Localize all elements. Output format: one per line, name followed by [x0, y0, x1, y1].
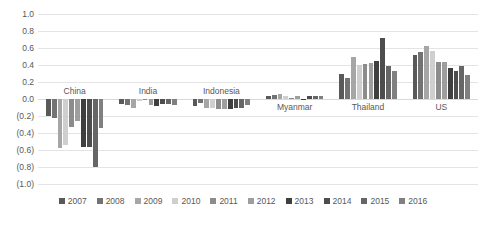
- legend-label: 2011: [219, 196, 237, 206]
- bar: [313, 96, 318, 99]
- y-axis-tick-label: 0.8: [0, 26, 34, 36]
- bar: [413, 55, 418, 99]
- chart-legend: 2007200820092010201120122013201420152016: [0, 196, 486, 206]
- legend-swatch-icon: [135, 198, 141, 204]
- bar: [193, 99, 198, 106]
- legend-item[interactable]: 2015: [361, 196, 389, 206]
- y-axis-tick-label: 0.6: [0, 43, 34, 53]
- bar: [380, 38, 385, 99]
- legend-item[interactable]: 2012: [248, 196, 276, 206]
- bar: [172, 99, 177, 105]
- bar: [424, 46, 429, 99]
- legend-label: 2016: [408, 196, 427, 206]
- bar: [137, 99, 142, 101]
- bar: [87, 99, 92, 147]
- bar: [465, 75, 470, 99]
- bar: [69, 99, 74, 127]
- legend-swatch-icon: [97, 198, 103, 204]
- legend-item[interactable]: 2010: [172, 196, 200, 206]
- bar: [245, 99, 250, 105]
- bar: [58, 99, 63, 148]
- bar: [363, 64, 368, 99]
- bar: [339, 74, 344, 99]
- bar: [386, 66, 391, 99]
- legend-label: 2012: [257, 196, 276, 206]
- y-axis-tick-label: (0.2): [0, 111, 34, 121]
- bar: [374, 61, 379, 99]
- bar: [131, 99, 136, 108]
- y-axis-tick-label: 0.4: [0, 60, 34, 70]
- bar: [430, 51, 435, 99]
- bar: [351, 57, 356, 100]
- legend-swatch-icon: [286, 198, 292, 204]
- group-label-china: China: [64, 86, 86, 96]
- bar: [392, 71, 397, 99]
- bar: [46, 99, 51, 116]
- bar: [125, 99, 130, 105]
- bar-group-thailand: Thailand: [339, 14, 398, 184]
- bar: [63, 99, 68, 145]
- legend-swatch-icon: [172, 198, 178, 204]
- bar: [119, 99, 124, 104]
- y-axis-tick-label: 0.0: [0, 94, 34, 104]
- bar: [99, 99, 104, 128]
- legend-item[interactable]: 2016: [399, 196, 427, 206]
- legend-item[interactable]: 2007: [59, 196, 87, 206]
- bar-group-indonesia: Indonesia: [192, 14, 251, 184]
- bar: [52, 99, 57, 118]
- legend-label: 2014: [333, 196, 352, 206]
- bar: [459, 66, 464, 99]
- bar: [289, 98, 294, 99]
- bar: [272, 95, 277, 99]
- y-axis-tick-label: (0.6): [0, 145, 34, 155]
- legend-label: 2013: [295, 196, 314, 206]
- legend-label: 2009: [144, 196, 163, 206]
- bar: [442, 62, 447, 99]
- legend-swatch-icon: [399, 198, 405, 204]
- bar-group-us: US: [412, 14, 471, 184]
- group-label-india: India: [139, 86, 157, 96]
- bar: [160, 99, 165, 104]
- bar: [266, 96, 271, 99]
- bar-groups-layer: ChinaIndiaIndonesiaMyanmarThailandUS: [38, 14, 478, 184]
- bar: [149, 99, 154, 105]
- legend-label: 2007: [68, 196, 87, 206]
- legend-swatch-icon: [248, 198, 254, 204]
- y-axis: 1.00.80.60.40.20.0(0.2)(0.4)(0.6)(0.8)(1…: [0, 14, 34, 184]
- bar: [198, 99, 203, 103]
- bar: [436, 62, 441, 99]
- bar: [216, 99, 221, 109]
- bar: [239, 99, 244, 108]
- bar: [278, 94, 283, 99]
- y-axis-tick-label: 1.0: [0, 9, 34, 19]
- bar: [154, 99, 159, 106]
- group-label-myanmar: Myanmar: [277, 102, 312, 112]
- legend-swatch-icon: [210, 198, 216, 204]
- legend-item[interactable]: 2013: [286, 196, 314, 206]
- legend-item[interactable]: 2008: [97, 196, 125, 206]
- bar: [228, 99, 233, 109]
- legend-label: 2008: [106, 196, 125, 206]
- legend-item[interactable]: 2009: [135, 196, 163, 206]
- bar: [301, 99, 306, 100]
- bar: [81, 99, 86, 147]
- bar: [357, 65, 362, 99]
- bar: [418, 52, 423, 99]
- bar: [454, 71, 459, 99]
- group-label-us: US: [435, 102, 447, 112]
- gridline: [38, 184, 478, 185]
- bar-chart: 1.00.80.60.40.20.0(0.2)(0.4)(0.6)(0.8)(1…: [0, 0, 486, 226]
- legend-swatch-icon: [361, 198, 367, 204]
- legend-swatch-icon: [324, 198, 330, 204]
- bar: [234, 99, 239, 108]
- legend-label: 2015: [370, 196, 389, 206]
- y-axis-tick-label: (1.0): [0, 179, 34, 189]
- bar: [204, 99, 209, 108]
- legend-item[interactable]: 2014: [324, 196, 352, 206]
- legend-item[interactable]: 2011: [210, 196, 237, 206]
- bar: [283, 96, 288, 99]
- legend-label: 2010: [181, 196, 200, 206]
- bar: [448, 68, 453, 99]
- legend-swatch-icon: [59, 198, 65, 204]
- group-label-thailand: Thailand: [352, 102, 385, 112]
